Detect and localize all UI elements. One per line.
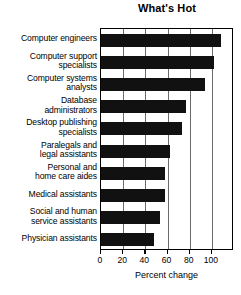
bar-slot bbox=[101, 96, 232, 118]
category-label-line: specialists bbox=[0, 128, 97, 138]
category-label: Computer systemsanalysts bbox=[0, 74, 97, 93]
category-label: Social and humanservice assistants bbox=[0, 207, 97, 226]
tick-mark bbox=[189, 250, 190, 254]
category-label-line: Computer engineers bbox=[0, 34, 97, 44]
category-label: Physician assistants bbox=[0, 234, 97, 244]
bar-slot bbox=[101, 118, 232, 140]
x-tick-label: 0 bbox=[98, 255, 103, 265]
category-label: Computer engineers bbox=[0, 34, 97, 44]
bar[interactable] bbox=[101, 78, 205, 91]
x-tick-label: 100 bbox=[204, 255, 218, 265]
bar[interactable] bbox=[101, 100, 186, 113]
category-label-line: service assistants bbox=[0, 217, 97, 227]
category-label-line: legal assistants bbox=[0, 150, 97, 160]
bar-slot bbox=[101, 184, 232, 206]
category-label-line: Medical assistants bbox=[0, 190, 97, 200]
bar-slot bbox=[101, 29, 232, 51]
plot-area bbox=[100, 28, 233, 250]
bar[interactable] bbox=[101, 34, 221, 47]
x-axis-tick-labels: 020406080100 bbox=[100, 255, 233, 267]
category-label-line: home care aides bbox=[0, 172, 97, 182]
tick-mark bbox=[211, 250, 212, 254]
x-tick-label: 20 bbox=[117, 255, 127, 265]
bar[interactable] bbox=[101, 211, 160, 224]
bar[interactable] bbox=[101, 189, 165, 202]
category-label: Personal andhome care aides bbox=[0, 163, 97, 182]
x-tick-label: 40 bbox=[140, 255, 150, 265]
tick-mark bbox=[122, 250, 123, 254]
category-label: Paralegals andlegal assistants bbox=[0, 141, 97, 160]
y-axis-category-labels: Computer engineersComputer supportspecia… bbox=[0, 28, 97, 250]
bar[interactable] bbox=[101, 167, 165, 180]
bar[interactable] bbox=[101, 233, 154, 246]
bar[interactable] bbox=[101, 122, 182, 135]
tick-mark bbox=[144, 250, 145, 254]
category-label-line: specialists bbox=[0, 61, 97, 71]
category-label: Desktop publishingspecialists bbox=[0, 118, 97, 137]
bar[interactable] bbox=[101, 145, 170, 158]
bar-slot bbox=[101, 73, 232, 95]
bar-slot bbox=[101, 140, 232, 162]
bar[interactable] bbox=[101, 56, 214, 69]
x-tick-label: 80 bbox=[184, 255, 194, 265]
bar-slot bbox=[101, 162, 232, 184]
chart-title: What's Hot bbox=[100, 2, 234, 14]
category-label: Computer supportspecialists bbox=[0, 52, 97, 71]
bar-slot bbox=[101, 51, 232, 73]
bar-slot bbox=[101, 229, 232, 251]
tick-mark bbox=[100, 250, 101, 254]
x-axis-title: Percent change bbox=[100, 270, 233, 281]
chart-container: What's Hot Computer engineersComputer su… bbox=[0, 0, 241, 295]
category-label: Medical assistants bbox=[0, 190, 97, 200]
x-tick-label: 60 bbox=[162, 255, 172, 265]
category-label-line: Physician assistants bbox=[0, 234, 97, 244]
tick-mark bbox=[167, 250, 168, 254]
bar-series bbox=[101, 29, 232, 249]
category-label-line: analysts bbox=[0, 83, 97, 93]
bar-slot bbox=[101, 207, 232, 229]
category-label-line: administrators bbox=[0, 106, 97, 116]
category-label: Databaseadministrators bbox=[0, 96, 97, 115]
